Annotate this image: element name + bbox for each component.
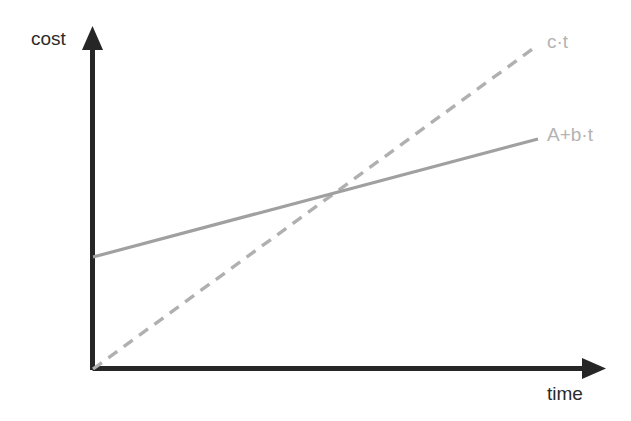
y-axis-label: cost [31, 28, 66, 50]
series-line-c-t [93, 45, 538, 369]
x-axis-arrowhead-icon [582, 358, 606, 379]
chart-canvas: cost time c·t A+b·t [0, 0, 631, 421]
series-label-a-plus-b-t: A+b·t [547, 124, 593, 146]
series-line-a-plus-b-t [93, 139, 538, 257]
y-axis-arrowhead-icon [82, 26, 103, 50]
series-label-c-t: c·t [547, 31, 568, 53]
chart-plot-area [0, 0, 631, 421]
x-axis-label: time [547, 383, 583, 405]
